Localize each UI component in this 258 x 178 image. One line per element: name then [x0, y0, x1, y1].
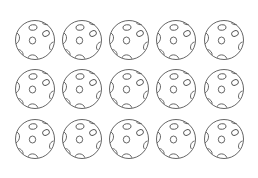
perforated-ball-icon: [155, 118, 197, 160]
perforated-ball-icon: [14, 68, 56, 110]
perforated-ball-icon: [203, 19, 245, 61]
perforated-ball-icon: [14, 19, 56, 61]
perforated-ball-icon: [61, 68, 103, 110]
perforated-ball-icon: [14, 118, 56, 160]
perforated-ball-icon: [108, 118, 150, 160]
perforated-ball-icon: [61, 19, 103, 61]
perforated-ball-icon: [203, 118, 245, 160]
perforated-ball-icon: [108, 68, 150, 110]
perforated-ball-icon: [203, 68, 245, 110]
perforated-ball-icon: [155, 19, 197, 61]
perforated-ball-icon: [155, 68, 197, 110]
perforated-ball-icon: [61, 118, 103, 160]
perforated-ball-icon: [108, 19, 150, 61]
ball-grid: [0, 0, 258, 178]
